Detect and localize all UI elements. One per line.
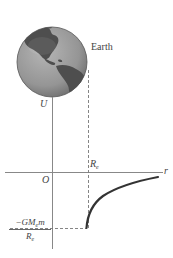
x-axis-label: r [164,166,168,176]
potential-curve [87,177,159,228]
min-energy-denominator: Re [9,230,51,242]
origin-label: O [42,175,49,185]
earth-label: Earth [91,42,113,52]
radius-label: Re [90,159,99,170]
radius-label-sub: e [96,164,99,170]
min-energy-label: −GMem Re [9,218,51,242]
y-axis-label: U [40,99,47,109]
min-energy-numerator: −GMem [9,218,51,230]
earth-globe-icon [17,25,87,97]
